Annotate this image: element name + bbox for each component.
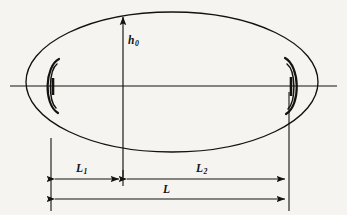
label-h0: h0	[128, 35, 139, 48]
label-L-total: L	[163, 184, 171, 197]
label-L1: L1	[76, 163, 87, 176]
label-L2-base: L	[196, 162, 203, 174]
label-L-base: L	[163, 183, 170, 195]
ellipse-outline	[26, 12, 318, 152]
figure-canvas: h0 L1 L2 L	[0, 0, 347, 215]
label-L2-subscript: 2	[203, 167, 207, 176]
label-L1-subscript: 1	[83, 167, 87, 176]
label-h0-subscript: 0	[134, 39, 138, 48]
ellipse-dimension-diagram	[0, 0, 347, 215]
label-L1-base: L	[76, 162, 83, 174]
label-L2: L2	[196, 163, 207, 176]
